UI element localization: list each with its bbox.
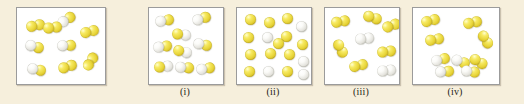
yellow-atom	[42, 22, 54, 34]
molecule-white-yellow	[175, 61, 195, 73]
molecule-yellow-yellow	[330, 14, 351, 28]
molecule-atom-yellow	[245, 14, 256, 25]
molecule-yellow-yellow	[476, 29, 495, 51]
molecule-white-yellow	[24, 39, 45, 55]
yellow-atom	[153, 61, 165, 73]
molecule-atom-yellow	[264, 17, 275, 28]
panel-iii	[324, 7, 400, 85]
white-atom	[152, 41, 164, 53]
yellow-atom	[243, 32, 254, 43]
panel-label-ii: (ii)	[236, 86, 310, 97]
molecule-atom-yellow	[265, 48, 276, 59]
molecule-atom-yellow	[273, 38, 284, 49]
white-atom	[262, 32, 273, 43]
panel-iv	[412, 7, 500, 85]
molecule-white-white	[354, 32, 374, 45]
molecule-white-yellow	[26, 62, 47, 77]
white-atom	[376, 65, 388, 77]
yellow-atom	[282, 13, 293, 24]
panel-i	[148, 7, 224, 85]
molecule-white-yellow	[195, 61, 216, 75]
molecule-yellow-yellow	[348, 58, 369, 73]
molecule-yellow-yellow	[381, 17, 400, 34]
molecule-atom-yellow	[282, 13, 293, 24]
yellow-atom	[245, 14, 256, 25]
panel-label-iv: (iv)	[412, 86, 498, 97]
panel-label-i: (i)	[148, 86, 222, 97]
molecule-white-white	[376, 64, 396, 77]
molecule-atom-yellow	[297, 39, 308, 50]
white-atom	[298, 69, 309, 80]
molecule-yellow-yellow	[42, 21, 62, 34]
molecule-atom-yellow	[244, 66, 255, 77]
yellow-atom	[273, 38, 284, 49]
molecule-atom-yellow	[243, 32, 254, 43]
molecule-yellow-yellow	[81, 51, 100, 73]
molecule-yellow-yellow	[424, 32, 445, 46]
molecule-yellow-yellow	[79, 24, 100, 39]
molecule-white-yellow	[191, 10, 212, 26]
yellow-atom	[265, 48, 276, 59]
white-atom	[354, 33, 366, 45]
panel-ii	[236, 7, 312, 85]
yellow-atom	[284, 49, 295, 60]
yellow-atom	[376, 46, 388, 58]
molecule-atom-white	[296, 21, 307, 32]
molecule-yellow-yellow	[57, 58, 78, 74]
molecule-yellow-white	[172, 44, 193, 59]
white-atom	[263, 66, 274, 77]
molecule-atom-white	[298, 69, 309, 80]
white-atom	[298, 56, 309, 67]
molecule-yellow-yellow	[462, 15, 483, 30]
molecule-atom-yellow	[282, 66, 293, 77]
molecule-atom-white	[298, 56, 309, 67]
molecule-yellow-white	[153, 60, 173, 73]
molecule-yellow-yellow	[376, 45, 396, 59]
molecule-atom-yellow	[245, 49, 256, 60]
panel-label-iii: (iii)	[324, 86, 398, 97]
molecule-white-yellow	[154, 13, 175, 27]
figure-stage: (i)(ii)(iii)(iv)	[0, 0, 524, 104]
molecule-white-yellow	[192, 37, 213, 52]
molecule-white-yellow	[152, 40, 172, 54]
yellow-atom	[264, 17, 275, 28]
white-atom	[296, 21, 307, 32]
molecule-atom-white	[262, 32, 273, 43]
molecule-yellow-yellow	[331, 38, 350, 60]
molecule-atom-yellow	[284, 49, 295, 60]
molecule-white-yellow	[57, 40, 76, 52]
yellow-atom	[245, 49, 256, 60]
molecule-white-yellow	[435, 65, 455, 77]
yellow-atom	[282, 66, 293, 77]
yellow-atom	[297, 39, 308, 50]
panel-reactant	[16, 7, 106, 85]
molecule-yellow-white	[171, 28, 191, 42]
molecule-yellow-yellow	[420, 13, 441, 28]
molecule-atom-white	[263, 66, 274, 77]
yellow-atom	[244, 66, 255, 77]
